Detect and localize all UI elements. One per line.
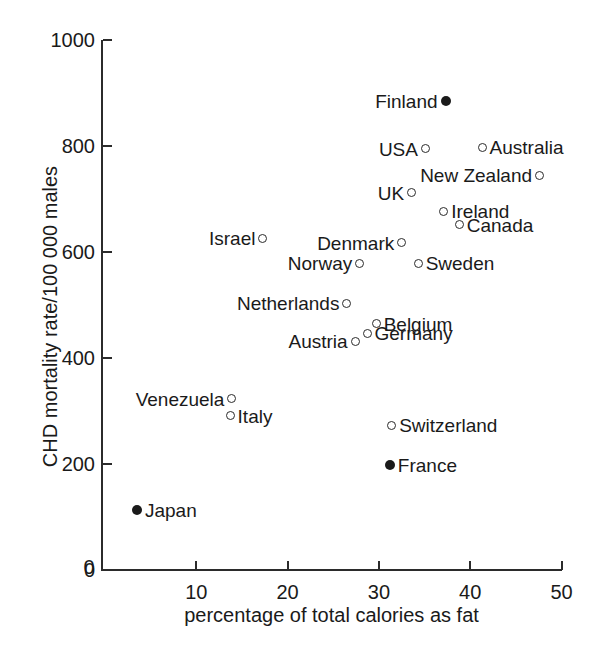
y-tick-mark [103, 357, 112, 359]
data-point-finland[interactable] [441, 96, 451, 106]
x-tick-mark [378, 561, 380, 570]
data-point-australia[interactable] [478, 143, 487, 152]
data-point-uk[interactable] [407, 188, 416, 197]
x-tick-mark [287, 561, 289, 570]
data-point-sweden[interactable] [414, 259, 423, 268]
x-tick-label: 20 [276, 581, 298, 604]
x-axis-line [101, 569, 562, 571]
y-tick-mark [103, 569, 112, 571]
point-label-usa: USA [379, 139, 418, 158]
point-label-france: France [398, 456, 457, 475]
x-tick-label: 10 [185, 581, 207, 604]
y-axis-title: CHD mortality rate/100 000 males [39, 117, 62, 517]
point-label-germany: Germany [375, 324, 453, 343]
data-point-venezuela[interactable] [227, 394, 236, 403]
data-point-norway[interactable] [355, 259, 364, 268]
data-point-canada[interactable] [455, 220, 464, 229]
x-tick-mark [195, 561, 197, 570]
x-axis-title: percentage of total calories as fat [101, 604, 562, 627]
data-point-switzerland[interactable] [387, 421, 396, 430]
data-point-austria[interactable] [351, 337, 360, 346]
point-label-new-zealand: New Zealand [420, 166, 532, 185]
data-point-denmark[interactable] [397, 238, 406, 247]
x-tick-label: 40 [459, 581, 481, 604]
data-point-israel[interactable] [258, 234, 267, 243]
data-point-germany[interactable] [363, 329, 372, 338]
data-point-france[interactable] [385, 460, 395, 470]
data-point-ireland[interactable] [439, 207, 448, 216]
y-tick-label: 1000 [20, 29, 95, 52]
point-label-japan: Japan [145, 501, 197, 520]
y-tick-mark [103, 145, 112, 147]
y-axis-line [101, 40, 103, 571]
point-label-sweden: Sweden [426, 254, 495, 273]
point-label-israel: Israel [209, 229, 255, 248]
point-label-netherlands: Netherlands [237, 294, 339, 313]
scatter-plot-figure: 02004006008001000 01020304050 FinlandUSA… [0, 0, 589, 654]
point-label-switzerland: Switzerland [399, 416, 497, 435]
point-label-denmark: Denmark [317, 233, 394, 252]
point-label-norway: Norway [288, 254, 352, 273]
point-label-australia: Australia [490, 138, 564, 157]
y-tick-mark [103, 39, 112, 41]
y-tick-mark [103, 463, 112, 465]
x-tick-label: 50 [550, 581, 572, 604]
data-point-usa[interactable] [421, 144, 430, 153]
point-label-austria: Austria [289, 332, 348, 351]
data-point-netherlands[interactable] [342, 299, 351, 308]
point-label-uk: UK [378, 183, 404, 202]
point-label-canada: Canada [467, 215, 534, 234]
x-tick-mark [469, 561, 471, 570]
data-point-new-zealand[interactable] [535, 171, 544, 180]
point-label-venezuela: Venezuela [136, 389, 225, 408]
point-label-finland: Finland [375, 91, 437, 110]
x-tick-label: 30 [368, 581, 390, 604]
x-tick-mark [561, 561, 563, 570]
x-tick-label: 0 [83, 556, 94, 579]
data-point-japan[interactable] [132, 505, 142, 515]
y-tick-mark [103, 251, 112, 253]
data-point-italy[interactable] [226, 411, 235, 420]
point-label-italy: Italy [238, 406, 273, 425]
